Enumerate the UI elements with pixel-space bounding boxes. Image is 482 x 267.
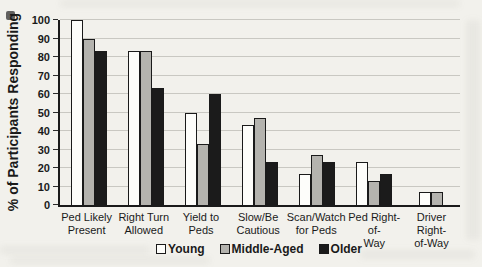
y-tick-label-10: 10 — [38, 181, 50, 193]
legend-swatch-young — [156, 244, 166, 254]
y-tick-mark-80 — [53, 56, 58, 57]
y-tick-mark-60 — [53, 93, 58, 94]
legend-label-middle-aged: Middle-Aged — [232, 242, 304, 256]
bar-young-yield-to-peds — [185, 113, 197, 206]
bar-group-ped-right-of-way — [346, 20, 403, 205]
bar-group-right-turn-allowed — [117, 20, 174, 205]
bar-middle-aged-ped-likely-present — [83, 39, 95, 206]
y-tick-label-90: 90 — [38, 33, 50, 45]
bar-young-driver-right-of-way — [419, 192, 431, 205]
y-tick-mark-70 — [53, 75, 58, 76]
legend-item-middle-aged: Middle-Aged — [220, 242, 304, 256]
legend-item-young: Young — [156, 242, 204, 256]
y-tick-label-60: 60 — [38, 88, 50, 100]
bar-young-ped-likely-present — [71, 20, 83, 205]
bar-young-ped-right-of-way — [356, 162, 368, 205]
scanned-bar-chart-page: % of Participants Responding 01020304050… — [0, 0, 482, 267]
legend-swatch-middle-aged — [220, 244, 230, 254]
bar-group-scan-watch-for-peds — [289, 20, 346, 205]
y-axis-title: % of Participants Responding — [5, 13, 21, 211]
bar-young-right-turn-allowed — [128, 51, 140, 205]
bar-middle-aged-right-turn-allowed — [140, 51, 152, 205]
y-tick-mark-20 — [53, 167, 58, 168]
y-tick-label-0: 0 — [44, 199, 50, 211]
bar-young-slow-be-cautious — [242, 125, 254, 205]
y-tick-label-40: 40 — [38, 125, 50, 137]
scan-artifact — [60, 0, 460, 7]
bar-older-scan-watch-for-peds — [323, 162, 335, 205]
y-tick-label-80: 80 — [38, 51, 50, 63]
bar-middle-aged-driver-right-of-way — [431, 192, 443, 205]
y-tick-mark-40 — [53, 130, 58, 131]
y-tick-mark-50 — [53, 112, 58, 113]
bar-older-yield-to-peds — [209, 94, 221, 205]
bar-group-yield-to-peds — [174, 20, 231, 205]
bar-group-ped-likely-present — [60, 20, 117, 205]
y-tick-label-50: 50 — [38, 107, 50, 119]
bar-older-ped-likely-present — [95, 51, 107, 205]
bar-group-slow-be-cautious — [231, 20, 288, 205]
y-tick-mark-0 — [53, 204, 58, 205]
bar-young-scan-watch-for-peds — [299, 174, 311, 205]
y-tick-mark-90 — [53, 38, 58, 39]
bar-middle-aged-slow-be-cautious — [254, 118, 266, 205]
legend-label-young: Young — [168, 242, 204, 256]
scan-artifact — [466, 20, 480, 240]
bar-group-driver-right-of-way — [403, 20, 460, 205]
bar-middle-aged-yield-to-peds — [197, 144, 209, 205]
y-tick-label-70: 70 — [38, 70, 50, 82]
y-tick-mark-100 — [53, 19, 58, 20]
scan-artifact — [10, 257, 210, 264]
bar-groups — [60, 20, 460, 205]
plot-area: 0102030405060708090100 — [58, 20, 460, 207]
legend-swatch-older — [319, 244, 329, 254]
y-tick-mark-10 — [53, 186, 58, 187]
bar-older-ped-right-of-way — [380, 174, 392, 205]
bar-older-slow-be-cautious — [266, 162, 278, 205]
y-tick-label-20: 20 — [38, 162, 50, 174]
bar-middle-aged-scan-watch-for-peds — [311, 155, 323, 205]
y-tick-mark-30 — [53, 149, 58, 150]
y-tick-label-30: 30 — [38, 144, 50, 156]
y-tick-label-100: 100 — [32, 14, 50, 26]
bar-older-right-turn-allowed — [152, 88, 164, 205]
bar-middle-aged-ped-right-of-way — [368, 181, 380, 205]
legend: YoungMiddle-AgedOlder — [58, 242, 460, 256]
legend-label-older: Older — [331, 242, 362, 256]
legend-item-older: Older — [319, 242, 362, 256]
